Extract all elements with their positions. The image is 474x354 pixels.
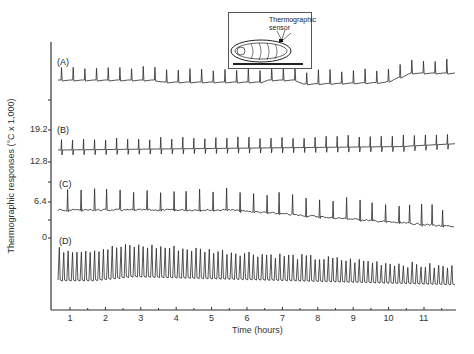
traces: [58, 59, 455, 285]
trace-c: [58, 188, 454, 227]
series-label-d: (D): [59, 236, 72, 246]
x-tick-label: 2: [103, 313, 108, 323]
x-axis-label: Time (hours): [232, 325, 283, 335]
y-tick-label: 19.2: [30, 124, 48, 134]
trace-d: [58, 244, 455, 285]
x-tick-label: 4: [174, 313, 179, 323]
inset-diagram: Thermographicsensor: [228, 12, 312, 69]
series-label-a: (A): [57, 57, 69, 67]
trace-b: [58, 134, 455, 155]
x-tick-label: 8: [315, 313, 320, 323]
inset-label: Thermographicsensor: [269, 16, 316, 32]
y-axis-label: Thermographic responses (°C x 1,000): [6, 98, 16, 253]
x-tick-label: 6: [245, 313, 250, 323]
x-tick-label: 11: [419, 313, 428, 323]
x-tick-label: 3: [138, 313, 143, 323]
sensor-icon: [279, 39, 283, 42]
x-tick-label: 7: [280, 313, 285, 323]
x-tick-label: 5: [209, 313, 214, 323]
x-tick-label: 9: [351, 313, 356, 323]
y-tick-label: 12.8: [30, 156, 48, 166]
x-tick-label: 1: [68, 313, 73, 323]
y-tick-label: 6.4: [34, 196, 47, 206]
y-tick-label: 0: [42, 232, 47, 242]
series-label-b: (B): [57, 125, 69, 135]
series-label-c: (C): [59, 179, 72, 189]
x-tick-label: 10: [384, 313, 394, 323]
